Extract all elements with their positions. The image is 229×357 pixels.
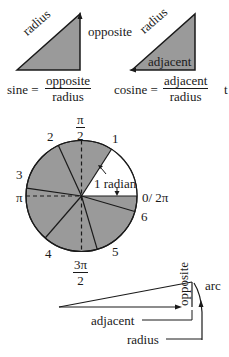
- sine-denominator: radius: [52, 89, 84, 103]
- radian-marker-6: 6: [141, 210, 148, 223]
- cosine-adjacent-label: adjacent: [148, 55, 191, 68]
- tangent-partial-label: t: [224, 83, 228, 96]
- pi-label: π: [16, 191, 23, 204]
- sine-formula-lhs: sine =: [7, 83, 39, 96]
- small-opposite-label: opposite: [177, 262, 190, 306]
- radian-marker-1: 1: [112, 132, 119, 145]
- radian-marker-2: 2: [47, 130, 54, 143]
- radian-circle: [26, 141, 137, 252]
- radian-marker-3: 3: [16, 168, 23, 181]
- zero-two-pi-label: 0/ 2π: [142, 191, 168, 204]
- radian-marker-5: 5: [112, 245, 119, 258]
- small-adjacent-label: adjacent: [91, 314, 134, 327]
- three-pi-over-2-num: 3π: [73, 258, 88, 273]
- sine-numerator: opposite: [45, 74, 91, 89]
- cosine-numerator: adjacent: [163, 74, 208, 89]
- cosine-formula-lhs: cosine =: [114, 83, 158, 96]
- small-radius-label: radius: [127, 333, 159, 346]
- sine-fraction: opposite radius: [45, 74, 91, 103]
- radian-marker-4: 4: [45, 247, 52, 260]
- arc-label: arc: [205, 279, 221, 292]
- pi-over-2-label: π 2: [76, 113, 85, 142]
- one-radian-label: 1 radian: [94, 177, 136, 190]
- pi-over-2-den: 2: [77, 128, 84, 142]
- three-pi-over-2-label: 3π 2: [73, 258, 88, 287]
- cosine-denominator: radius: [170, 89, 202, 103]
- cosine-fraction: adjacent radius: [163, 74, 208, 103]
- three-pi-over-2-den: 2: [77, 273, 84, 287]
- cosine-arrowhead-icon: [129, 68, 136, 73]
- sine-opposite-label: opposite: [88, 25, 132, 38]
- pi-over-2-num: π: [76, 113, 85, 128]
